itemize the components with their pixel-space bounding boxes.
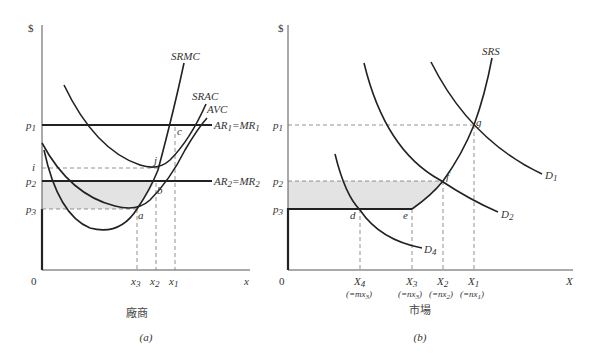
- point-d-label: d: [350, 209, 356, 221]
- point-j-label: j: [152, 154, 157, 166]
- caption-letter-market: (b): [414, 331, 427, 344]
- tick-i-firm: i: [32, 161, 35, 173]
- panel-a-firm: $ 0 x p1 i p2 p3 x3 x2 x1 SRMC SRAC AVC …: [25, 22, 260, 344]
- x-axis-label-market: X: [565, 275, 574, 287]
- tick-p3-market: p3: [272, 203, 284, 217]
- tick-p1-firm: p1: [25, 119, 36, 133]
- d1-label: D1: [544, 169, 557, 183]
- tick-p2-market: p2: [272, 175, 284, 189]
- ar2-mr2-label: AR2=MR2: [213, 175, 260, 189]
- tick-X1-note: (=nx1): [460, 289, 484, 301]
- point-e-label: e: [403, 209, 408, 221]
- tick-x3-firm: x3: [130, 275, 141, 289]
- tick-X1-market: X1: [467, 275, 479, 289]
- tick-X3-market: X3: [405, 275, 418, 289]
- tick-X2-note: (=nx2): [429, 289, 453, 301]
- x-axis-label-firm: x: [243, 275, 249, 287]
- d4-label: D4: [423, 243, 437, 257]
- caption-letter-firm: (a): [140, 331, 153, 344]
- srmc-label: SRMC: [171, 50, 200, 62]
- shaded-area-market: [288, 181, 443, 209]
- figure: $ 0 x p1 i p2 p3 x3 x2 x1 SRMC SRAC AVC …: [0, 0, 599, 361]
- tick-p2-firm: p2: [25, 175, 37, 189]
- tick-p1-market: p1: [272, 119, 283, 133]
- srs-label: SRS: [482, 45, 500, 57]
- tick-X2-market: X2: [436, 275, 449, 289]
- point-g-label: g: [476, 116, 482, 128]
- tick-p3-firm: p3: [25, 203, 37, 217]
- tick-X4-note: (=mx3): [346, 289, 372, 301]
- point-a-label: a: [138, 209, 144, 221]
- y-axis-label-market: $: [278, 22, 284, 34]
- point-b-label: b: [157, 184, 163, 196]
- caption-title-firm: 廠商: [126, 306, 148, 320]
- tick-x1-firm: x1: [168, 275, 178, 289]
- tick-x2-firm: x2: [149, 275, 160, 289]
- d1-curve: [431, 62, 542, 174]
- ar1-mr1-label: AR1=MR1: [213, 119, 260, 133]
- origin-label-firm: 0: [31, 275, 37, 287]
- panel-b-market: $ 0 X p1 p2 p3 X4 (=mx3) X3 (=nx3) X2 (=…: [272, 22, 574, 344]
- srac-label: SRAC: [192, 90, 219, 102]
- d2-label: D2: [500, 208, 514, 222]
- tick-X4-market: X4: [353, 275, 366, 289]
- tick-X3-note: (=nx3): [398, 289, 422, 301]
- y-axis-label-firm: $: [28, 22, 34, 34]
- origin-label-market: 0: [279, 275, 285, 287]
- caption-title-market: 市場: [409, 303, 431, 317]
- point-c-label: c: [177, 125, 182, 137]
- avc-label: AVC: [206, 103, 228, 115]
